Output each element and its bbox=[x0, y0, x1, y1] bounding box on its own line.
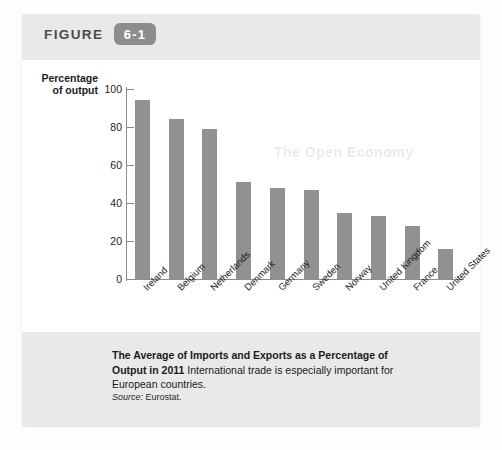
y-tick-label: 40 bbox=[82, 197, 122, 209]
x-label-slot: France bbox=[397, 281, 431, 331]
bar-slot bbox=[262, 89, 296, 279]
x-label-slot: Ireland bbox=[127, 281, 161, 331]
bar-slot bbox=[430, 89, 464, 279]
bar bbox=[135, 100, 150, 279]
bar-slot bbox=[194, 89, 228, 279]
source-label: Source: bbox=[112, 392, 143, 402]
x-label-slot: Norway bbox=[329, 281, 363, 331]
x-label-slot: United Kingdom bbox=[363, 281, 397, 331]
x-label-slot: Netherlands bbox=[194, 281, 228, 331]
figure-label: FIGURE bbox=[44, 27, 103, 42]
x-label-slot: Germany bbox=[262, 281, 296, 331]
figure-header: FIGURE 6-1 bbox=[22, 14, 480, 58]
bar bbox=[202, 129, 217, 279]
caption-area: The Average of Imports and Exports as a … bbox=[22, 336, 480, 426]
x-label-slot: Sweden bbox=[296, 281, 330, 331]
bar bbox=[169, 119, 184, 279]
y-tick-label: 100 bbox=[82, 83, 122, 95]
y-tick-label: 80 bbox=[82, 121, 122, 133]
x-label-slot: Denmark bbox=[228, 281, 262, 331]
figure-box: FIGURE 6-1 The Open Economy Percentage o… bbox=[22, 14, 480, 426]
source-value: Eurostat. bbox=[143, 392, 182, 402]
bar-slot bbox=[161, 89, 195, 279]
figure-caption: The Average of Imports and Exports as a … bbox=[112, 348, 412, 392]
x-axis-labels: IrelandBelgiumNetherlandsDenmarkGermanyS… bbox=[127, 281, 464, 331]
source-note: Source: Eurostat. bbox=[112, 392, 182, 402]
y-tick-label: 20 bbox=[82, 235, 122, 247]
page-canvas: FIGURE 6-1 The Open Economy Percentage o… bbox=[0, 0, 502, 450]
bar-slot bbox=[127, 89, 161, 279]
x-label-slot: United States bbox=[430, 281, 464, 331]
bar-slot bbox=[363, 89, 397, 279]
x-label-slot: Belgium bbox=[161, 281, 195, 331]
bar-slot bbox=[329, 89, 363, 279]
figure-number-badge: 6-1 bbox=[114, 23, 156, 45]
bar bbox=[438, 249, 453, 279]
y-tick-label: 0 bbox=[82, 273, 122, 285]
chart-panel: The Open Economy Percentage of output 02… bbox=[22, 60, 480, 332]
y-tick-mark bbox=[126, 279, 134, 280]
y-tick-label: 60 bbox=[82, 159, 122, 171]
bar-slot bbox=[296, 89, 330, 279]
